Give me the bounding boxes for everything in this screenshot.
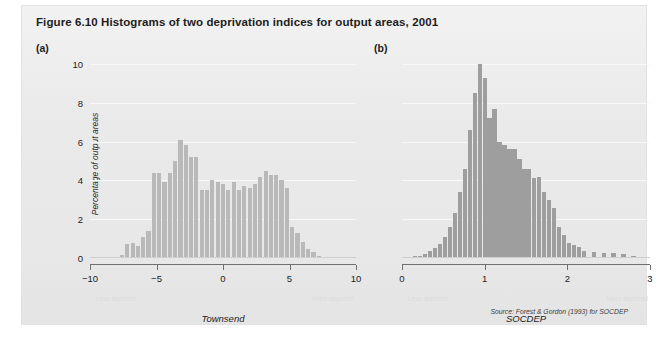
histogram-bar	[269, 175, 273, 258]
histogram-bar	[248, 188, 252, 258]
x-axis-tick	[223, 265, 224, 270]
x-axis-tick	[402, 265, 403, 270]
x-axis-tick-label: −10	[82, 273, 98, 284]
x-axis-tick-label: 0	[220, 273, 225, 284]
histogram-bar	[453, 213, 457, 258]
x-axis-b: 0123 Less deprived More deprived SOCDEP	[402, 264, 650, 273]
histogram-bar	[131, 243, 135, 258]
histogram-bar	[152, 173, 156, 258]
histogram-bar	[232, 182, 236, 258]
y-axis-tick-label: 4	[78, 175, 83, 186]
y-axis-tick-label: 0	[78, 253, 83, 264]
histogram-bar	[537, 177, 541, 258]
less-deprived-label-a: Less deprived	[96, 295, 136, 302]
bar-series-b	[402, 64, 650, 258]
histogram-bar	[279, 180, 283, 258]
histogram-bar	[184, 145, 188, 258]
histogram-bar	[290, 227, 294, 258]
histogram-bar	[443, 237, 447, 258]
histogram-bar	[502, 145, 506, 258]
histogram-bar	[557, 227, 561, 258]
histogram-bar	[522, 169, 526, 258]
figure-card: Figure 6.10 Histograms of two deprivatio…	[22, 6, 646, 324]
histogram-bar	[497, 142, 501, 258]
histogram-bar	[512, 149, 516, 258]
y-axis-tick-label: 8	[78, 97, 83, 108]
y-axis-tick-label: 10	[72, 59, 83, 70]
histogram-bar	[448, 227, 452, 258]
x-axis-tick-label: 2	[565, 273, 570, 284]
x-axis-tick-label: 0	[399, 273, 404, 284]
x-axis-tick-label: 1	[482, 273, 487, 284]
histogram-socdep: 0123 Less deprived More deprived SOCDEP	[374, 58, 660, 270]
more-deprived-label-b: More deprived	[606, 295, 648, 302]
histogram-bar	[527, 169, 531, 258]
histogram-bar	[162, 182, 166, 258]
x-axis-tick-label: 5	[287, 273, 292, 284]
histogram-bar	[157, 173, 161, 258]
histogram-bar	[487, 118, 491, 258]
histogram-bar	[567, 243, 571, 258]
deprivation-rule-a	[148, 299, 300, 300]
histogram-bar	[547, 200, 551, 258]
histogram-bar	[210, 180, 214, 258]
histogram-bar	[468, 130, 472, 258]
x-axis-tick-label: −5	[151, 273, 162, 284]
histogram-bar	[237, 190, 241, 258]
histogram-bar	[542, 192, 546, 258]
x-axis-tick	[485, 265, 486, 270]
x-axis-tick	[356, 265, 357, 270]
x-axis-tick	[650, 265, 651, 270]
histogram-bar	[194, 157, 198, 258]
x-axis-title-a: Townsend	[90, 313, 356, 324]
histogram-bar	[146, 231, 150, 258]
x-axis-tick	[290, 265, 291, 270]
x-axis-line-b	[402, 257, 650, 258]
histogram-bar	[274, 175, 278, 258]
histogram-bar	[205, 190, 209, 258]
plot-area-b	[402, 64, 650, 258]
more-deprived-label-a: More deprived	[312, 295, 354, 302]
less-deprived-label-b: Less deprived	[408, 295, 448, 302]
histogram-bar	[168, 173, 172, 258]
histogram-bar	[301, 242, 305, 258]
histogram-townsend: Percentage of output areas 0246810 −10−5…	[42, 58, 362, 270]
histogram-bar	[285, 188, 289, 258]
histogram-bar	[478, 64, 482, 258]
x-axis-line-a	[90, 257, 356, 258]
x-axis-tick-label: 3	[647, 273, 652, 284]
histogram-bar	[242, 186, 246, 258]
y-axis-tick-label: 2	[78, 214, 83, 225]
histogram-bar	[189, 157, 193, 258]
source-note: Source: Forest & Gordon (1993) for SOCDE…	[490, 308, 628, 315]
histogram-bar	[253, 184, 257, 258]
histogram-bar	[216, 182, 220, 258]
x-axis-tick-label: 10	[351, 273, 362, 284]
histogram-bar	[226, 190, 230, 258]
histogram-bar	[221, 184, 225, 258]
figure-title: Figure 6.10 Histograms of two deprivatio…	[36, 16, 438, 28]
deprivation-rule-b	[460, 299, 594, 300]
plot-area-a: 0246810	[90, 64, 356, 258]
x-axis-tick	[90, 265, 91, 270]
panel-label-a: (a)	[36, 42, 49, 54]
histogram-bar	[264, 171, 268, 258]
histogram-bar	[483, 78, 487, 258]
y-axis-tick-label: 6	[78, 136, 83, 147]
histogram-bar	[552, 208, 556, 258]
histogram-bar	[173, 161, 177, 258]
x-axis-a: −10−50510 Less deprived More deprived To…	[90, 264, 356, 273]
histogram-bar	[458, 192, 462, 258]
histogram-bar	[438, 244, 442, 258]
histogram-bar	[178, 140, 182, 258]
panel-label-b: (b)	[374, 42, 387, 54]
histogram-bar	[200, 190, 204, 258]
histogram-bar	[492, 109, 496, 258]
histogram-bar	[532, 178, 536, 258]
histogram-bar	[295, 233, 299, 258]
histogram-bar	[562, 235, 566, 258]
x-axis-tick	[567, 265, 568, 270]
bar-series-a	[90, 64, 356, 258]
histogram-bar	[125, 244, 129, 258]
histogram-bar	[517, 159, 521, 258]
